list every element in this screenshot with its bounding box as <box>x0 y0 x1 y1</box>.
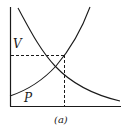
diagram-canvas: V P (a) <box>0 0 127 133</box>
figure-caption: (a) <box>54 114 68 125</box>
diagram-figure: V P (a) <box>0 0 127 133</box>
increasing-curve <box>10 7 90 96</box>
label-v: V <box>13 37 23 51</box>
decreasing-curve <box>18 8 120 101</box>
label-p: P <box>23 91 33 105</box>
